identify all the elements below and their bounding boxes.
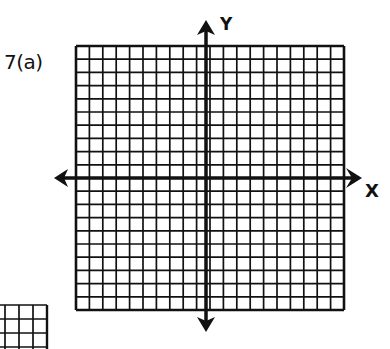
problem-label: 7(a) [4, 50, 43, 74]
y-axis-label: Y [220, 14, 232, 34]
axes [54, 20, 362, 332]
x-axis-label: X [365, 180, 379, 201]
coordinate-plane [0, 0, 390, 349]
partial-grid-fragment [0, 305, 47, 349]
worksheet: 7(a) Y X [0, 0, 390, 349]
